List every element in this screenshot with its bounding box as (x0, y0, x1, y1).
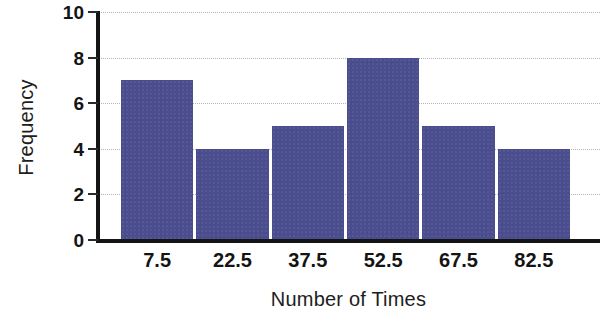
x-axis-tick-labels: 7.522.537.552.567.582.5 (97, 250, 600, 280)
y-tick-mark-4 (88, 148, 98, 150)
bars-layer (97, 12, 600, 240)
y-tick-label-4: 4 (26, 140, 84, 159)
y-tick-mark-10 (88, 11, 98, 13)
bar-7.5 (121, 80, 193, 240)
bar-82.5 (498, 149, 570, 240)
x-axis-title: Number of Times (97, 288, 600, 311)
y-tick-mark-6 (88, 102, 98, 104)
x-axis-line (96, 239, 600, 243)
x-tick-label-82.5: 82.5 (489, 250, 579, 270)
bar-22.5 (196, 149, 268, 240)
bar-67.5 (422, 126, 494, 240)
y-tick-label-10: 10 (26, 3, 84, 22)
y-tick-label-0: 0 (26, 231, 84, 250)
y-tick-label-6: 6 (26, 94, 84, 113)
y-axis-tick-labels: 0246810 (0, 0, 84, 316)
y-tick-mark-2 (88, 193, 98, 195)
y-tick-mark-0 (88, 239, 98, 241)
bar-37.5 (272, 126, 344, 240)
bar-52.5 (347, 58, 419, 240)
y-tick-mark-8 (88, 57, 98, 59)
y-tick-label-8: 8 (26, 49, 84, 68)
y-axis-line (96, 11, 100, 242)
histogram-figure: Frequency 0246810 7.522.537.552.567.582.… (0, 0, 615, 316)
y-tick-label-2: 2 (26, 185, 84, 204)
